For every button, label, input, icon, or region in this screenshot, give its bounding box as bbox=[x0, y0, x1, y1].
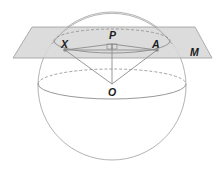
label-o: O bbox=[108, 86, 116, 98]
label-m: M bbox=[190, 46, 199, 58]
sphere-plane-diagram: X P A M O bbox=[0, 0, 224, 174]
label-x: X bbox=[60, 38, 69, 50]
label-a: A bbox=[151, 38, 160, 50]
label-p: P bbox=[109, 29, 117, 41]
segments bbox=[65, 44, 157, 84]
